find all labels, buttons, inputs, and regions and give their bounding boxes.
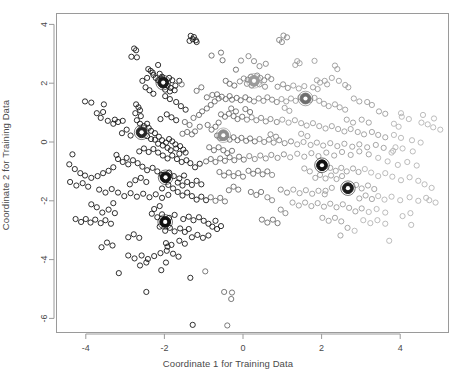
y-tick-label: 2 [39,81,49,86]
data-point [383,135,388,140]
y-tick-label: -4 [39,256,49,264]
data-point [101,102,106,107]
data-point [310,191,315,196]
data-point [137,149,142,154]
data-point [206,233,211,238]
data-point [375,218,380,223]
data-point [257,136,262,141]
data-point [310,121,315,126]
data-point [286,120,291,125]
data-point [329,124,334,129]
data-point [223,78,228,83]
data-point [381,145,386,150]
data-point [111,201,116,206]
data-point [139,253,144,258]
data-point [200,235,205,240]
data-point [344,117,349,122]
data-point [316,188,321,193]
data-point [271,140,276,145]
data-point [186,214,191,219]
data-point [182,119,187,124]
data-point [140,78,145,83]
data-point [321,204,326,209]
data-point [337,105,342,110]
data-point [350,120,355,125]
data-point [122,194,127,199]
data-point [141,146,146,151]
data-point [181,173,186,178]
data-point [238,58,243,63]
data-point [407,175,412,180]
data-point [106,207,111,212]
data-point [398,111,403,116]
cluster-medoid-marker [158,215,173,230]
data-point [322,192,327,197]
data-point [243,106,248,111]
medoid-center-hole [163,175,167,179]
data-point [241,157,246,162]
plot-frame [57,14,449,333]
data-point [222,173,227,178]
data-point [373,142,378,147]
data-point [268,116,273,121]
data-point [199,85,204,90]
data-point [194,39,199,44]
data-point [376,109,381,114]
data-point [262,84,267,89]
data-point [174,118,179,123]
data-point [309,151,314,156]
data-point [307,169,312,174]
data-point [359,186,364,191]
data-point [274,99,279,104]
data-point [231,184,236,189]
data-point [83,216,88,221]
data-point [278,207,283,212]
data-point [382,197,387,202]
data-point [407,195,412,200]
data-point [105,118,110,123]
data-point [249,115,254,120]
data-point [233,67,238,72]
data-point [163,94,168,99]
data-point [174,156,179,161]
data-point [160,153,165,158]
data-point [172,212,177,217]
data-point [169,115,174,120]
data-point [265,220,270,225]
data-point [226,188,231,193]
data-point [170,153,175,158]
data-point [366,209,371,214]
data-point [309,203,314,208]
data-point [181,216,186,221]
data-point [345,225,350,230]
data-point [158,251,163,256]
data-point [323,188,328,193]
data-point [288,139,293,144]
data-point [317,124,322,129]
data-point [239,135,244,140]
data-point [179,159,184,164]
data-point [288,155,293,160]
data-point [135,161,140,166]
x-tick-label: -2 [160,343,168,353]
data-point [323,176,328,181]
data-point [196,215,201,220]
data-point [98,115,103,120]
data-point [207,145,212,150]
data-point [133,178,138,183]
data-point [190,322,195,327]
y-tick-label: 0 [39,139,49,144]
data-point [332,153,337,158]
data-point [213,218,218,223]
data-point [238,98,243,103]
data-point [119,131,124,136]
data-point [195,232,200,237]
data-point [178,226,183,231]
data-point [266,137,271,142]
data-point [100,210,105,215]
data-point [132,256,137,261]
data-point [429,185,434,190]
data-point [359,206,364,211]
data-point [406,116,411,121]
data-point [369,102,374,107]
